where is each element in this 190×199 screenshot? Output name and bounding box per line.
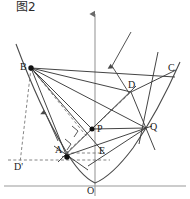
arrow-normal-to-directrix (112, 66, 129, 93)
point-label-O: O (87, 186, 94, 196)
point-label-D: D (128, 80, 135, 90)
figure-canvas (0, 0, 190, 199)
line-arrow-tail-upper (112, 32, 131, 66)
line-B-Dprime (20, 68, 31, 163)
point-label-C: C (168, 63, 175, 73)
right-angle-marks-group (65, 126, 78, 150)
point-dot-B (28, 65, 33, 70)
geometry-figure: 图2 B C D P Q A E D' O (0, 0, 190, 199)
point-label-Q: Q (150, 122, 157, 132)
figure-caption: 图2 (16, 1, 36, 14)
line-B-E (31, 68, 104, 153)
point-dot-A (64, 154, 69, 159)
point-label-P: P (97, 124, 103, 134)
line-A-Q (62, 126, 152, 157)
line-B-P (31, 68, 92, 129)
arrow-along-BA (45, 112, 58, 141)
point-label-B: B (20, 62, 27, 72)
point-label-D-prime: D' (14, 162, 23, 172)
solid-segments-group (54, 52, 176, 170)
right-angle-lower (65, 139, 71, 150)
right-angle-upper (72, 126, 78, 137)
point-label-E: E (99, 146, 105, 156)
dashed-construction-group (8, 68, 131, 163)
point-dot-P (90, 127, 95, 132)
point-label-A: A (55, 145, 62, 155)
